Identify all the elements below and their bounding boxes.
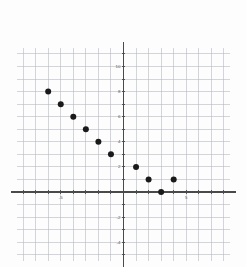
data-point — [146, 176, 152, 182]
y-tick-label: 2 — [112, 164, 121, 169]
data-point — [58, 101, 64, 107]
scatter-plot-figure: 108642-2-4-55 — [0, 0, 246, 267]
data-point — [171, 176, 177, 182]
x-tick-label: 5 — [180, 195, 192, 200]
y-tick-label: 10 — [112, 64, 121, 69]
y-tick-label: 6 — [112, 114, 121, 119]
data-point — [95, 139, 101, 145]
data-point — [70, 114, 76, 120]
data-point — [83, 126, 89, 132]
data-point — [45, 89, 51, 95]
data-point — [108, 151, 114, 157]
y-tick-label: 4 — [112, 139, 121, 144]
y-tick-label: 8 — [112, 89, 121, 94]
data-point — [133, 164, 139, 170]
data-point — [158, 189, 164, 195]
plot-canvas — [0, 0, 246, 267]
y-tick-label: -4 — [112, 240, 121, 245]
x-tick-label: -5 — [55, 195, 67, 200]
y-tick-label: -2 — [112, 215, 121, 220]
